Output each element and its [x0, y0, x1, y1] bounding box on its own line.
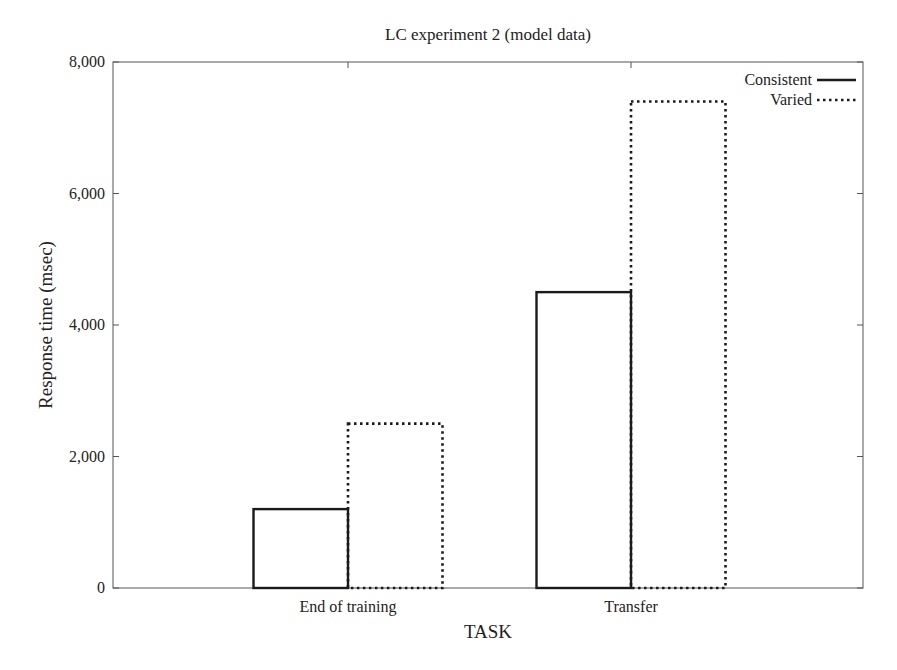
bar-consistent	[254, 509, 349, 588]
y-tick-label: 8,000	[69, 53, 105, 70]
x-tick-label: Transfer	[604, 598, 658, 615]
x-tick-label: End of training	[300, 598, 397, 616]
legend: ConsistentVaried	[744, 71, 856, 108]
y-tick-label: 6,000	[69, 185, 105, 202]
plot-frame	[113, 62, 863, 588]
bar-consistent	[537, 292, 632, 588]
y-axis-label: Response time (msec)	[35, 241, 57, 409]
y-tick-label: 2,000	[69, 448, 105, 465]
x-axis-ticks: End of trainingTransfer	[300, 62, 659, 616]
y-axis-ticks: 02,0004,0006,0008,000	[69, 53, 863, 596]
bars	[254, 101, 726, 588]
bar-varied	[631, 101, 726, 588]
legend-label: Varied	[770, 91, 812, 108]
bar-varied	[348, 424, 443, 588]
legend-label: Consistent	[744, 71, 812, 88]
y-tick-label: 4,000	[69, 316, 105, 333]
x-axis-label: TASK	[464, 621, 512, 642]
y-tick-label: 0	[97, 579, 105, 596]
chart: 02,0004,0006,0008,000 End of trainingTra…	[0, 0, 897, 670]
chart-title: LC experiment 2 (model data)	[385, 25, 591, 44]
